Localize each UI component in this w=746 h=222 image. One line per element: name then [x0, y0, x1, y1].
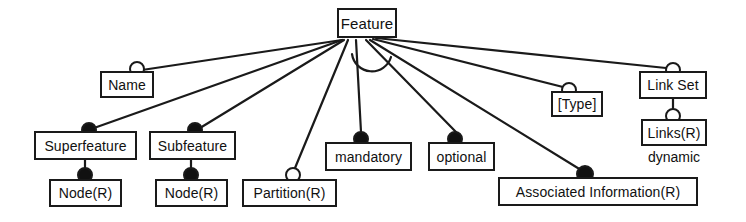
- edge-feature-name: [142, 40, 342, 70]
- node-node_sub[interactable]: Node(R): [155, 179, 228, 207]
- edge-feature-mandatory: [356, 40, 361, 132]
- edge-feature-type: [373, 39, 563, 87]
- node-type-label: [Type]: [553, 97, 602, 111]
- label-dynamic: dynamic: [636, 150, 712, 164]
- node-links[interactable]: Links(R): [641, 119, 707, 146]
- node-linkset-label: Link Set: [642, 78, 703, 92]
- node-partition[interactable]: Partition(R): [242, 179, 337, 207]
- node-superfeature-label: Superfeature: [39, 139, 131, 153]
- node-assoc_info-label: Associated Information(R): [511, 185, 685, 199]
- node-subfeature-label: Subfeature: [153, 139, 233, 153]
- feature-diagram: FeatureNameSuperfeatureSubfeatureNode(R)…: [0, 0, 746, 222]
- node-node_sub-label: Node(R): [160, 186, 224, 200]
- node-mandatory-label: mandatory: [330, 150, 407, 164]
- edge-feature-optional: [366, 40, 456, 132]
- edge-feature-linkset: [376, 38, 666, 68]
- node-optional-label: optional: [432, 150, 492, 164]
- node-node_super-label: Node(R): [54, 186, 118, 200]
- alternative-arc: [352, 54, 391, 71]
- node-linkset[interactable]: Link Set: [639, 71, 707, 99]
- node-links-label: Links(R): [643, 126, 706, 140]
- node-node_super[interactable]: Node(R): [49, 179, 122, 207]
- node-mandatory[interactable]: mandatory: [325, 142, 412, 171]
- node-feature[interactable]: Feature: [337, 8, 397, 38]
- edge-feature-subfeature: [200, 40, 344, 128]
- node-type[interactable]: [Type]: [551, 91, 603, 117]
- node-optional[interactable]: optional: [428, 142, 495, 171]
- node-superfeature[interactable]: Superfeature: [34, 131, 137, 160]
- node-assoc_info[interactable]: Associated Information(R): [498, 177, 698, 206]
- node-name[interactable]: Name: [100, 71, 154, 98]
- node-subfeature[interactable]: Subfeature: [149, 131, 236, 160]
- node-partition-label: Partition(R): [249, 186, 331, 200]
- node-feature-label: Feature: [336, 16, 398, 31]
- node-name-label: Name: [103, 78, 151, 92]
- arcs-group: [352, 54, 391, 71]
